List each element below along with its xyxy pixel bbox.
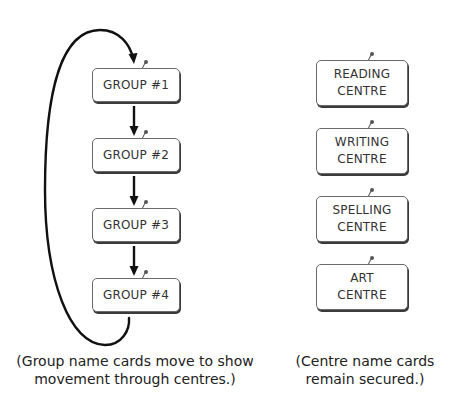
group-card-1: GROUP #1 (92, 68, 180, 102)
caption-left-line2: movement through centres.) (10, 370, 260, 388)
centre-card-line1: READING (334, 66, 391, 83)
group-card-label: GROUP #4 (103, 287, 169, 304)
group-card-3: GROUP #3 (92, 208, 180, 242)
centre-card-line2: CENTRE (337, 287, 386, 304)
group-card-label: GROUP #1 (103, 77, 169, 94)
group-card-label: GROUP #3 (103, 217, 169, 234)
caption-left-line1: (Group name cards move to show (10, 352, 260, 370)
centre-card-writing: WRITING CENTRE (316, 128, 408, 174)
group-card-4: GROUP #4 (92, 278, 180, 312)
rotation-diagram: GROUP #1 GROUP #2 GROUP #3 GROUP #4 READ… (0, 0, 456, 414)
centre-card-spelling: SPELLING CENTRE (316, 196, 408, 242)
centre-card-line1: SPELLING (332, 202, 391, 219)
caption-right: (Centre name cards remain secured.) (290, 352, 440, 388)
caption-right-line2: remain secured.) (290, 370, 440, 388)
caption-right-line1: (Centre name cards (290, 352, 440, 370)
group-card-2: GROUP #2 (92, 138, 180, 172)
down-arrow-2-3 (130, 176, 139, 206)
group-card-label: GROUP #2 (103, 147, 169, 164)
centre-card-line1: ART (350, 270, 374, 287)
centre-card-line2: CENTRE (337, 219, 386, 236)
centre-card-line1: WRITING (335, 134, 389, 151)
down-arrow-1-2 (130, 106, 139, 136)
centre-card-line2: CENTRE (337, 151, 386, 168)
caption-left: (Group name cards move to show movement … (10, 352, 260, 388)
down-arrow-3-4 (130, 246, 139, 276)
centre-card-line2: CENTRE (337, 83, 386, 100)
centre-card-reading: READING CENTRE (316, 60, 408, 106)
centre-card-art: ART CENTRE (316, 264, 408, 310)
